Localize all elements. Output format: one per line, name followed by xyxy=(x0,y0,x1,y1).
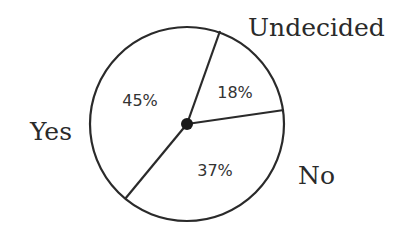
slice-label-no-pct: 37% xyxy=(197,161,233,180)
category-label-yes: Yes xyxy=(29,117,72,146)
category-label-no: No xyxy=(298,161,335,190)
pie-chart: 45% 18% 37% Yes Undecided No xyxy=(0,0,400,241)
slice-label-yes-pct: 45% xyxy=(122,91,158,110)
center-dot xyxy=(181,118,193,130)
slice-label-undecided-pct: 18% xyxy=(217,83,253,102)
category-label-undecided: Undecided xyxy=(248,13,385,42)
